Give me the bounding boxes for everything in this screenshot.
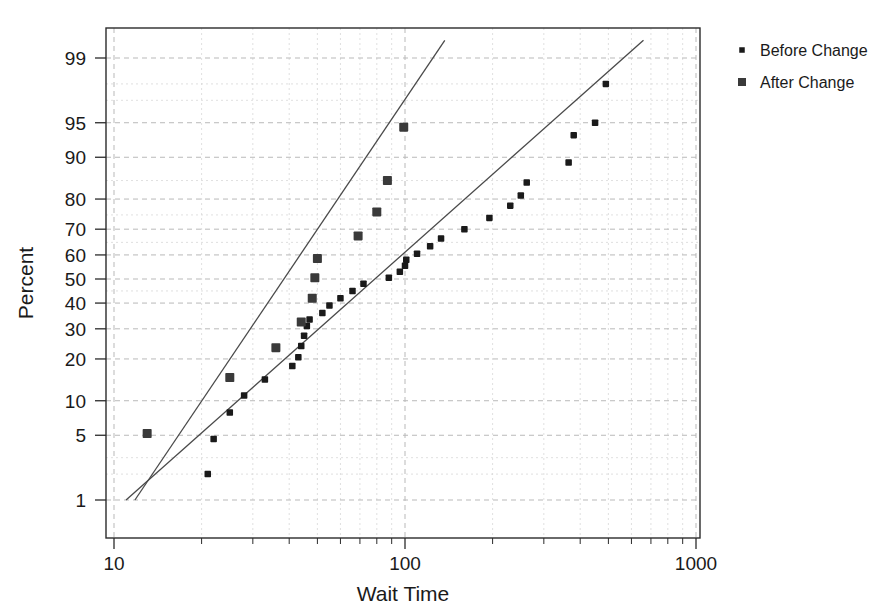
probability-plot-figure: 101001000999590807060504030201051 Before…: [0, 0, 895, 612]
y-tick-label: 60: [65, 245, 86, 266]
data-point-marker: [570, 132, 577, 139]
data-point-marker: [262, 376, 269, 383]
data-point-marker: [297, 318, 306, 327]
plot-frame: [106, 28, 700, 538]
y-tick-label: 99: [65, 48, 86, 69]
data-point-marker: [310, 273, 319, 282]
x-tick-label: 100: [389, 553, 421, 574]
y-tick-label: 1: [75, 490, 86, 511]
data-point-marker: [349, 288, 356, 295]
data-point-marker: [518, 192, 525, 199]
data-point-marker: [143, 429, 152, 438]
data-point-marker: [301, 333, 308, 340]
minor-gridlines: [106, 28, 700, 538]
data-point-marker: [461, 226, 468, 233]
data-point-marker: [403, 257, 410, 264]
legend-label: After Change: [760, 74, 854, 91]
y-axis-title: Percent: [14, 247, 37, 320]
data-point-marker: [565, 159, 572, 166]
data-point-marker: [402, 263, 409, 270]
data-point-marker: [354, 231, 363, 240]
data-point-marker: [241, 392, 248, 399]
data-point-marker: [271, 343, 280, 352]
fit-line: [126, 40, 643, 500]
data-point-marker: [427, 243, 434, 250]
data-point-marker: [399, 123, 408, 132]
data-point-marker: [227, 409, 234, 416]
legend-marker: [739, 47, 745, 53]
data-point-marker: [326, 302, 333, 309]
data-point-marker: [486, 215, 493, 222]
data-point-marker: [397, 269, 404, 276]
data-point-marker: [210, 436, 217, 443]
y-tick-label: 20: [65, 349, 86, 370]
y-tick-label: 50: [65, 269, 86, 290]
data-point-marker: [603, 81, 610, 88]
legend: Before ChangeAfter Change: [738, 42, 868, 91]
data-point-marker: [298, 343, 305, 350]
data-point-marker: [360, 281, 367, 288]
data-point-marker: [507, 202, 514, 209]
data-point-marker: [308, 294, 317, 303]
data-point-marker: [205, 471, 212, 478]
data-point-marker: [337, 295, 344, 302]
y-tick-label: 90: [65, 147, 86, 168]
y-tick-label: 10: [65, 391, 86, 412]
x-axis-title: Wait Time: [357, 582, 450, 605]
data-point-marker: [438, 235, 445, 242]
axis-tick-labels: 101001000999590807060504030201051: [65, 48, 717, 574]
y-tick-label: 95: [65, 113, 86, 134]
y-tick-label: 5: [75, 425, 86, 446]
data-point-marker: [523, 179, 530, 186]
data-point-marker: [592, 119, 599, 126]
x-tick-label: 10: [103, 553, 124, 574]
data-point-marker: [306, 316, 313, 323]
data-point-marker: [372, 207, 381, 216]
fit-lines: [126, 40, 643, 500]
y-tick-label: 40: [65, 293, 86, 314]
data-point-marker: [383, 176, 392, 185]
data-point-marker: [319, 310, 326, 317]
legend-label: Before Change: [760, 42, 868, 59]
x-tick-label: 1000: [675, 553, 717, 574]
data-point-marker: [295, 354, 302, 361]
y-tick-label: 30: [65, 319, 86, 340]
data-point-marker: [289, 363, 296, 370]
y-tick-label: 80: [65, 189, 86, 210]
major-gridlines: [106, 28, 700, 538]
data-point-marker: [414, 250, 421, 257]
legend-marker: [738, 78, 746, 86]
plot-canvas: 101001000999590807060504030201051 Before…: [0, 0, 895, 612]
axes-frame: [106, 28, 700, 538]
y-tick-label: 70: [65, 219, 86, 240]
data-point-marker: [386, 275, 393, 282]
data-point-marker: [225, 373, 234, 382]
data-point-marker: [313, 254, 322, 263]
